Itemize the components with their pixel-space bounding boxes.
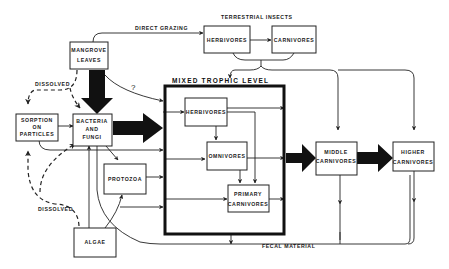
label-uncertain-flow: ? <box>131 83 136 92</box>
node-primary-carnivores: PRIMARY CARNIVORES <box>228 185 269 212</box>
node-mangrove-leaves: MANGROVE LEAVES <box>70 42 108 69</box>
terrestrial-insects-title: TERRESTRIAL INSECTS <box>221 14 293 20</box>
svg-text:CARNIVORES: CARNIVORES <box>316 158 357 164</box>
label-fecal-material: FECAL MATERIAL <box>262 243 316 249</box>
edge-terr-to-levels <box>230 60 261 78</box>
node-bacteria-and-fungi: BACTERIA AND FUNGI <box>73 114 112 146</box>
edge-dissolved-mangrove-sorption <box>28 70 77 104</box>
label-direct-grazing: DIRECT GRAZING <box>135 25 188 31</box>
node-omnivores: OMNIVORES <box>207 142 247 170</box>
svg-text:FUNGI: FUNGI <box>82 134 101 140</box>
edge-direct-grazing <box>93 33 203 42</box>
thick-arrow-mangrove-bacteria <box>81 70 113 114</box>
svg-text:BACTERIA: BACTERIA <box>76 118 108 124</box>
svg-text:MIDDLE: MIDDLE <box>324 149 347 155</box>
svg-text:CARNIVORES: CARNIVORES <box>274 37 315 43</box>
svg-text:HERBIVORES: HERBIVORES <box>186 109 226 115</box>
label-dissolved-bottom: DISSOLVED <box>38 206 73 212</box>
svg-text:PARTICLES: PARTICLES <box>20 131 54 137</box>
svg-text:MANGROVE: MANGROVE <box>71 47 106 53</box>
svg-text:SORPTION: SORPTION <box>21 117 53 123</box>
node-middle-carnivores: MIDDLE CARNIVORES <box>316 142 357 175</box>
edge-terr-to-middle <box>261 66 338 130</box>
svg-text:OMNIVORES: OMNIVORES <box>208 153 245 159</box>
edge-dissolved-mangrove-bacteria <box>70 88 80 108</box>
svg-text:AND: AND <box>85 126 98 132</box>
svg-text:CARNIVORES: CARNIVORES <box>228 201 269 207</box>
node-terrestrial-herbivores: HERBIVORES <box>204 26 250 53</box>
svg-text:PRIMARY: PRIMARY <box>234 191 262 197</box>
node-higher-carnivores: HIGHER CARNIVORES <box>393 142 434 171</box>
svg-text:HERBIVORES: HERBIVORES <box>207 37 247 43</box>
edge-dissolved-algae-bacteria <box>40 144 75 192</box>
edge-terr-to-higher <box>338 70 414 130</box>
node-herbivores: HERBIVORES <box>185 98 227 126</box>
terrestrial-insects-bracket <box>233 53 294 60</box>
node-algae: ALGAE <box>74 228 116 257</box>
label-dissolved-top: DISSOLVED <box>35 81 70 87</box>
food-web-diagram: MIXED TROPHIC LEVEL TERRESTRIAL INSECTS … <box>0 0 449 269</box>
svg-text:HIGHER: HIGHER <box>401 149 425 155</box>
dissolved-edges <box>28 70 80 226</box>
svg-text:CARNIVORES: CARNIVORES <box>393 159 434 165</box>
thick-arrow-middle-higher <box>357 144 393 172</box>
svg-text:LEAVES: LEAVES <box>77 57 101 63</box>
mixed-trophic-level-title: MIXED TROPHIC LEVEL <box>172 77 269 84</box>
edge-algae-protozoa <box>105 195 122 228</box>
edge-higher-to-fecal <box>408 202 414 244</box>
node-protozoa: PROTOZOA <box>104 164 146 194</box>
svg-text:ON: ON <box>33 124 42 130</box>
edge-bacteria-protozoa <box>106 146 118 160</box>
thick-arrow-bacteria-mixed <box>113 113 163 143</box>
svg-text:ALGAE: ALGAE <box>84 239 105 245</box>
node-sorption-on-particles: SORPTION ON PARTICLES <box>16 114 58 141</box>
thick-arrow-mixed-middle <box>286 144 316 172</box>
svg-text:PROTOZOA: PROTOZOA <box>108 176 142 182</box>
edge-dissolved-algae-sorption <box>28 151 79 226</box>
node-terrestrial-carnivores: CARNIVORES <box>272 26 316 53</box>
